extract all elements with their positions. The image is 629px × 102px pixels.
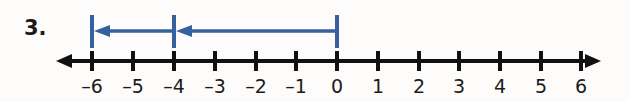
tick-label: –6 (81, 75, 103, 97)
number-line-problem: 3. (0, 0, 629, 102)
axis-right-arrowhead-icon (585, 54, 601, 68)
axis-group (56, 54, 601, 68)
tick-label: 0 (331, 75, 343, 97)
tick-label: 3 (453, 75, 465, 97)
number-line-figure: –6 –5 –4 –3 –2 –1 0 1 2 3 4 5 6 (0, 0, 629, 102)
axis-left-arrowhead-icon (56, 54, 72, 68)
tick-label: 2 (413, 75, 425, 97)
jump-arrow-1 (176, 25, 337, 37)
axis-tick-labels-group: –6 –5 –4 –3 –2 –1 0 1 2 3 4 5 6 (81, 75, 587, 97)
tick-label: –4 (163, 75, 185, 97)
tick-label: –3 (204, 75, 226, 97)
jump-arrow-1-arrowhead-icon (176, 25, 192, 37)
jump-arrow-2 (94, 25, 174, 37)
tick-label: –2 (245, 75, 267, 97)
tick-label: –5 (122, 75, 144, 97)
jump-arrow-2-arrowhead-icon (94, 25, 110, 37)
tick-label: 4 (494, 75, 506, 97)
tick-label: –1 (285, 75, 307, 97)
tick-label: 6 (575, 75, 587, 97)
tick-label: 5 (535, 75, 547, 97)
tick-label: 1 (372, 75, 384, 97)
